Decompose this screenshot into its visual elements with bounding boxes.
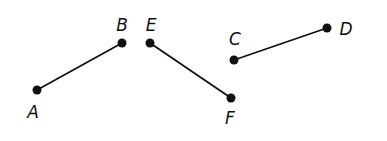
segment-ef xyxy=(150,43,231,98)
points-layer xyxy=(33,24,332,103)
diagram-canvas xyxy=(0,0,387,141)
segments-layer xyxy=(37,28,327,98)
point-d-dot xyxy=(323,24,332,33)
segment-cd xyxy=(234,28,327,60)
point-label-b: B xyxy=(116,17,128,34)
point-label-f: F xyxy=(225,110,235,127)
segment-ab xyxy=(37,43,122,90)
point-label-a: A xyxy=(27,104,39,121)
point-label-e: E xyxy=(146,17,157,34)
point-a-dot xyxy=(33,86,42,95)
point-c-dot xyxy=(230,56,239,65)
point-f-dot xyxy=(227,94,236,103)
point-e-dot xyxy=(146,39,155,48)
point-label-c: C xyxy=(229,31,241,48)
point-label-d: D xyxy=(339,21,352,38)
point-b-dot xyxy=(118,39,127,48)
